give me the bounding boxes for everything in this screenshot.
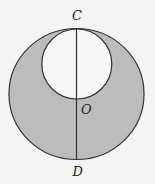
label-c: C xyxy=(72,8,82,23)
circle-diagram: C O D xyxy=(0,0,155,184)
label-d: D xyxy=(72,164,84,179)
geometry-figure: C O D xyxy=(0,0,155,184)
label-o: O xyxy=(81,102,92,117)
